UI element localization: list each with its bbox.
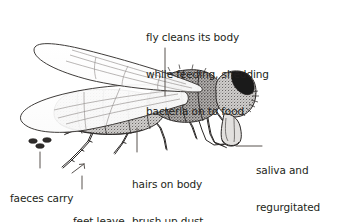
fly-cleans-line-1: fly cleans its body — [146, 31, 269, 43]
fly-contamination-diagram: fly cleans its body while feeding, shedd… — [0, 0, 338, 222]
fly-cleans-line-2: while feeding, shedding — [146, 68, 269, 80]
hairs-line-1: hairs on body — [132, 178, 203, 190]
saliva-label: saliva and regurgitated food deposited b… — [256, 139, 333, 222]
fly-cleans-line-3: bacteria on to food — [146, 105, 269, 117]
faeces-spots — [29, 138, 51, 149]
hairs-label: hairs on body brush up dust and bacteria — [132, 153, 203, 222]
hairs-line-2: brush up dust — [132, 215, 203, 222]
fly-cleans-label: fly cleans its body while feeding, shedd… — [146, 6, 269, 142]
faeces-line-1: faeces carry — [10, 192, 73, 204]
saliva-line-2: regurgitated — [256, 201, 333, 213]
leader-feet-arrow — [72, 164, 84, 173]
faeces-label: faeces carry micro- organisms — [10, 167, 73, 222]
saliva-line-1: saliva and — [256, 164, 333, 176]
